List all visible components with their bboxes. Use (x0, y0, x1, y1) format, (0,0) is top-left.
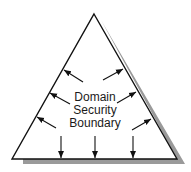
label-line-3: Boundary (69, 116, 120, 130)
boundary-label: Domain Security Boundary (69, 90, 120, 130)
domain-security-diagram: Domain Security Boundary (0, 0, 191, 172)
label-line-2: Security (73, 103, 116, 117)
label-line-1: Domain (74, 90, 115, 104)
